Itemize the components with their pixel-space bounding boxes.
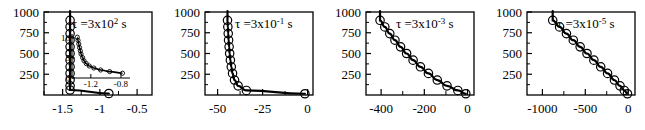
- data-point-marker: [234, 82, 242, 90]
- data-point-marker: [443, 82, 451, 90]
- inset-y-tick-label: 10: [61, 33, 71, 43]
- data-point-marker: [576, 43, 584, 51]
- data-point-marker: [402, 49, 410, 57]
- inset-x-tick-label: -0.8: [114, 79, 129, 89]
- y-tick-label: 1000: [174, 5, 200, 20]
- data-point-marker: [105, 89, 113, 97]
- y-tick-label: 500: [503, 46, 523, 61]
- x-tick-label: -500: [573, 101, 597, 116]
- x-tick-label: 0: [304, 101, 311, 116]
- y-tick-label: 750: [503, 25, 523, 40]
- x-tick-label: -1000: [527, 101, 557, 116]
- data-point-marker: [66, 86, 74, 94]
- y-tick-label: 750: [181, 25, 201, 40]
- chart-panel-1: 2505007501000-1.5-1-0.5τ =3x102 s0510-1.…: [0, 0, 161, 130]
- data-point-marker: [623, 90, 631, 98]
- data-point-marker: [569, 36, 577, 44]
- chart-panel-4: 2505007501000-1000-5000τ =3x10-5 s: [483, 0, 644, 130]
- plot-area-4: 2505007501000-1000-5000τ =3x10-5 s: [483, 0, 644, 130]
- y-tick-label: 1000: [335, 5, 361, 20]
- data-point-marker: [583, 49, 591, 57]
- data-point-marker: [409, 56, 417, 64]
- plot-area-3: 2505007501000-400-2000τ =3x10-3 s: [322, 0, 483, 130]
- data-point-marker: [603, 69, 611, 77]
- tau-annotation: τ =3x10-1 s: [235, 16, 293, 31]
- data-point-marker: [416, 63, 424, 71]
- data-point-marker: [424, 69, 432, 77]
- y-tick-label: 250: [503, 67, 523, 82]
- y-tick-label: 750: [20, 25, 40, 40]
- y-tick-label: 250: [20, 67, 40, 82]
- y-tick-label: 500: [181, 46, 201, 61]
- y-tick-label: 500: [20, 46, 40, 61]
- inset-y-tick-label: 0: [66, 73, 71, 83]
- plot-area-2: 2505007501000-50-250τ =3x10-1 s: [161, 0, 322, 130]
- x-tick-label: 0: [625, 101, 632, 116]
- chart-panel-3: 2505007501000-400-2000τ =3x10-3 s: [322, 0, 483, 130]
- x-tick-label: -0.5: [127, 101, 148, 116]
- y-tick-label: 750: [342, 25, 362, 40]
- y-tick-label: 500: [342, 46, 362, 61]
- x-tick-label: -1.5: [52, 101, 73, 116]
- y-tick-label: 250: [181, 67, 201, 82]
- data-point-marker: [396, 43, 404, 51]
- y-tick-label: 250: [342, 67, 362, 82]
- tau-annotation: τ =3x10-3 s: [396, 16, 454, 31]
- chart-panel-2: 2505007501000-50-250τ =3x10-1 s: [161, 0, 322, 130]
- x-tick-label: 0: [464, 101, 471, 116]
- x-tick-label: -25: [254, 101, 271, 116]
- data-point-marker: [433, 76, 441, 84]
- data-point-marker: [242, 86, 250, 94]
- data-point-marker: [454, 86, 462, 94]
- y-tick-label: 1000: [496, 5, 522, 20]
- data-point-marker: [462, 90, 470, 98]
- x-tick-label: -1: [94, 101, 105, 116]
- inset-x-tick-label: -1.2: [84, 79, 98, 89]
- x-tick-label: -50: [209, 101, 226, 116]
- tau-annotation: τ =3x10-5 s: [557, 16, 615, 31]
- data-point-marker: [301, 90, 309, 98]
- x-tick-label: -400: [369, 101, 393, 116]
- data-point-marker: [549, 16, 557, 24]
- figure-decay-panels: 2505007501000-1.5-1-0.5τ =3x102 s0510-1.…: [0, 0, 645, 130]
- plot-area-1: 2505007501000-1.5-1-0.5τ =3x102 s0510-1.…: [0, 0, 161, 130]
- x-tick-label: -200: [412, 101, 436, 116]
- tau-annotation: τ =3x102 s: [72, 16, 127, 31]
- data-point-marker: [597, 63, 605, 71]
- y-tick-label: 1000: [13, 5, 39, 20]
- inset-y-tick-label: 5: [66, 53, 71, 63]
- data-point-marker: [590, 56, 598, 64]
